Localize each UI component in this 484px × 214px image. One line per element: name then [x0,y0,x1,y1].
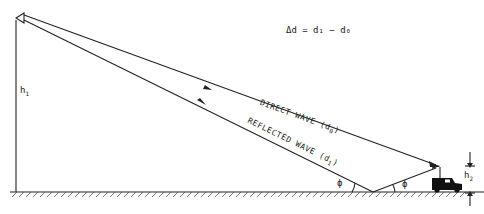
antenna-icon [16,13,24,23]
direct-arrow-icon [203,85,212,90]
vehicle-icon [432,178,462,193]
reflected-arrow-icon [197,98,206,105]
ground-hatch [12,192,465,197]
h2-label: h2 [464,170,473,182]
h1-label: h1 [20,85,29,97]
direct-wave-line [24,15,436,165]
phi-left-label: ϕ [337,178,342,188]
reflected-wave-incident [24,20,373,192]
angle-arc-right [393,185,395,192]
diagram-canvas [0,0,484,214]
angle-arc-left [352,183,355,192]
delta-d-equation: Δd = d₁ − d₀ [286,25,351,35]
phi-right-label: ϕ [402,179,407,189]
